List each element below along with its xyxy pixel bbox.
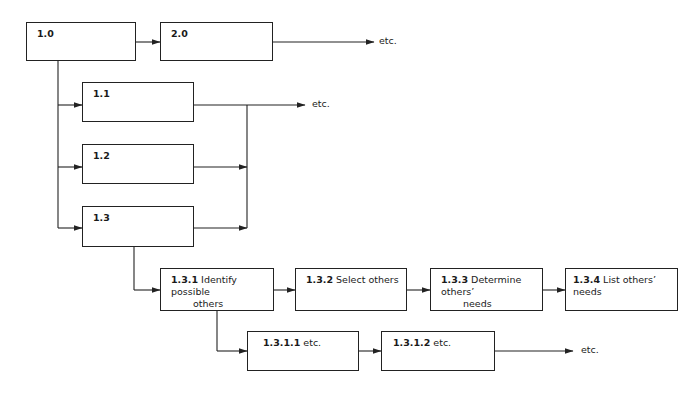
etc-label-1-3-1-2: etc. xyxy=(581,344,599,355)
node-1-2: 1.2 xyxy=(82,144,194,184)
node-label: etc. xyxy=(433,337,451,348)
node-1-0: 1.0 xyxy=(26,22,136,61)
etc-label-1-x: etc. xyxy=(312,98,330,109)
node-number: 1.3.1.1 xyxy=(263,337,300,348)
node-number: 1.3.3 xyxy=(441,274,468,285)
node-number: 1.1 xyxy=(93,88,110,99)
etc-label-2-0: etc. xyxy=(379,35,397,46)
node-1-3-2: 1.3.2 Select others xyxy=(295,268,407,311)
node-number: 1.3.1.2 xyxy=(393,337,430,348)
node-1-3-1: 1.3.1 Identify possible others xyxy=(160,268,274,311)
node-number: 2.0 xyxy=(171,28,188,39)
node-number: 1.3.1 xyxy=(171,274,198,285)
node-1-3-3: 1.3.3 Determine others’ needs xyxy=(430,268,543,311)
node-1-3-1-2: 1.3.1.2 etc. xyxy=(381,331,495,371)
node-number: 1.2 xyxy=(93,150,110,161)
node-number: 1.3.2 xyxy=(306,274,333,285)
node-1-3-4: 1.3.4 List others’ needs xyxy=(565,268,678,311)
node-label: Select others xyxy=(336,274,399,285)
node-number: 1.3.4 xyxy=(573,274,600,285)
node-number: 1.3 xyxy=(93,212,110,223)
node-1-3-1-1: 1.3.1.1 etc. xyxy=(247,331,359,371)
node-number: 1.0 xyxy=(37,28,54,39)
node-label-cont: needs xyxy=(441,298,542,310)
node-label: etc. xyxy=(303,337,321,348)
node-1-1: 1.1 xyxy=(82,82,194,122)
node-label-cont: others xyxy=(171,298,273,310)
node-2-0: 2.0 xyxy=(160,22,273,61)
node-1-3: 1.3 xyxy=(82,206,194,247)
